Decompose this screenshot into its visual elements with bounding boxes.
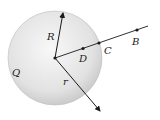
label-R: R [46,31,55,42]
label-C: C [104,45,112,56]
label-D: D [78,53,87,64]
label-B: B [131,36,139,47]
sphere-diagram: R r Q D C B [0,0,160,120]
point-B [135,28,138,31]
center-point [53,56,56,59]
label-Q: Q [12,67,20,78]
point-C [97,41,100,44]
point-D [81,47,84,50]
